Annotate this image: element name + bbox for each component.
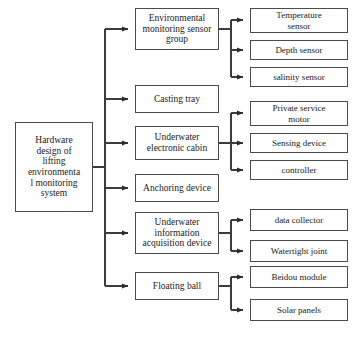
node-sensing-device[interactable]: Sensing device xyxy=(250,133,348,153)
node-environmental-monitoring-sensor-group-label: Environmentalmonitoring sensorgroup xyxy=(138,13,216,45)
node-data-collector[interactable]: data collector xyxy=(250,209,348,231)
node-private-service-motor[interactable]: Private servicemotor xyxy=(250,101,348,126)
node-environmental-monitoring-sensor-group[interactable]: Environmentalmonitoring sensorgroup xyxy=(135,8,219,50)
node-depth-sensor[interactable]: Depth sensor xyxy=(250,40,348,60)
node-underwater-electronic-cabin[interactable]: Underwaterelectronic cabin xyxy=(135,126,219,160)
node-temperature-sensor-label: Temperaturesensor xyxy=(253,10,345,30)
node-watertight-joint-label: Watertight joint xyxy=(253,246,345,256)
node-controller-label: controller xyxy=(253,165,345,175)
node-floating-ball[interactable]: Floating ball xyxy=(135,272,219,300)
node-root-label: Hardwaredesign ofliftingenvironmental mo… xyxy=(18,135,90,199)
node-watertight-joint[interactable]: Watertight joint xyxy=(250,240,348,262)
node-beidou-module[interactable]: Beidou module xyxy=(250,266,348,288)
node-anchoring-device-label: Anchoring device xyxy=(138,183,216,194)
node-anchoring-device[interactable]: Anchoring device xyxy=(135,174,219,202)
node-private-service-motor-label: Private servicemotor xyxy=(253,103,345,123)
node-solar-panels-label: Solar panels xyxy=(253,305,345,315)
node-underwater-electronic-cabin-label: Underwaterelectronic cabin xyxy=(138,132,216,153)
hardware-design-hierarchy-diagram: Hardwaredesign ofliftingenvironmental mo… xyxy=(0,0,358,338)
node-temperature-sensor[interactable]: Temperaturesensor xyxy=(250,8,348,33)
node-underwater-information-acquisition-device-label: Underwaterinformationacquisition device xyxy=(138,217,216,249)
node-data-collector-label: data collector xyxy=(253,215,345,225)
node-salinity-sensor[interactable]: salinity sensor xyxy=(250,67,348,87)
node-depth-sensor-label: Depth sensor xyxy=(253,45,345,55)
node-casting-tray[interactable]: Casting tray xyxy=(135,85,219,113)
node-sensing-device-label: Sensing device xyxy=(253,138,345,148)
node-controller[interactable]: controller xyxy=(250,160,348,180)
node-salinity-sensor-label: salinity sensor xyxy=(253,72,345,82)
node-solar-panels[interactable]: Solar panels xyxy=(250,299,348,321)
node-floating-ball-label: Floating ball xyxy=(138,281,216,292)
node-beidou-module-label: Beidou module xyxy=(253,272,345,282)
node-root[interactable]: Hardwaredesign ofliftingenvironmental mo… xyxy=(15,122,93,212)
node-casting-tray-label: Casting tray xyxy=(138,94,216,105)
node-underwater-information-acquisition-device[interactable]: Underwaterinformationacquisition device xyxy=(135,212,219,254)
